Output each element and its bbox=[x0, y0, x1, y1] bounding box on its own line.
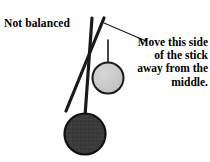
vertical-stick bbox=[85, 18, 92, 116]
callout-instruction-text: Move this side of the stick away from th… bbox=[136, 36, 208, 89]
heavy-weight-ball bbox=[65, 114, 106, 155]
not-balanced-label: Not balanced bbox=[4, 17, 70, 29]
balance-diagram: Not balanced Move this side of the stick… bbox=[0, 0, 210, 162]
light-weight-ball bbox=[93, 63, 124, 94]
